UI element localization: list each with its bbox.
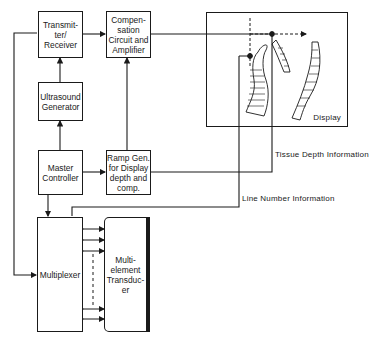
line-number-label: Line Number Information xyxy=(242,194,335,203)
ramp-generator-block: Ramp Gen. for Display depth and comp. xyxy=(106,150,151,195)
transmitter-receiver-block: Transmit- ter/ Receiver xyxy=(38,11,83,58)
multiplexer-block: Multiplexer xyxy=(37,217,83,332)
display-label: Display xyxy=(313,113,341,122)
compensation-amplifier-block: Compen- sation Circuit and Amplifier xyxy=(106,11,151,58)
ultrasound-generator-block: Ultrasound Generator xyxy=(38,82,83,121)
feedback-line xyxy=(14,33,37,275)
tissue-depth-label: Tissue Depth Information xyxy=(275,150,369,159)
master-controller-block: Master Controller xyxy=(38,150,83,195)
display-panel: Display xyxy=(206,12,348,127)
transducer-block: Multi- element Transduc- er xyxy=(104,217,150,332)
element-connections xyxy=(83,229,104,319)
